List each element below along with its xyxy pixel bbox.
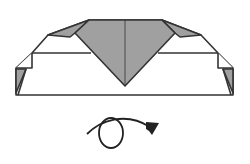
origami-diagram: Turn over bbox=[0, 0, 250, 164]
right-side-notch bbox=[218, 53, 233, 68]
arrow-head-icon bbox=[146, 122, 159, 135]
turn-over-arrow-icon bbox=[87, 118, 159, 148]
arrow-loop bbox=[99, 118, 123, 148]
diagram-canvas bbox=[0, 0, 250, 164]
folded-model bbox=[16, 20, 233, 95]
